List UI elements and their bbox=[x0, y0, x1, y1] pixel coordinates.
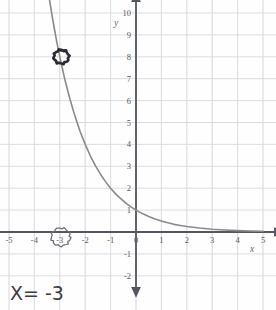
x-tick-label: -3 bbox=[56, 235, 63, 245]
x-axis-label: x bbox=[249, 244, 255, 254]
coordinate-plane: -5-4-3-2-1012345 -2-112345678910 x y X= … bbox=[0, 0, 276, 310]
paper-background bbox=[0, 0, 276, 310]
x-tick-label: 5 bbox=[261, 235, 265, 245]
x-tick-label: -4 bbox=[31, 235, 39, 245]
y-tick-label: -1 bbox=[124, 249, 131, 259]
y-tick-label: 10 bbox=[123, 8, 132, 18]
y-tick-label: 8 bbox=[127, 52, 131, 62]
x-tick-label: 3 bbox=[210, 235, 214, 245]
y-tick-label: 6 bbox=[127, 96, 131, 106]
y-axis-label: y bbox=[113, 18, 119, 28]
y-tick-label: 3 bbox=[127, 161, 131, 171]
x-tick-label: -2 bbox=[82, 235, 89, 245]
y-tick-label: 7 bbox=[127, 74, 131, 84]
graph-canvas: -5-4-3-2-1012345 -2-112345678910 x y X= … bbox=[0, 0, 276, 310]
x-tick-label: -5 bbox=[5, 235, 12, 245]
handwritten-answer: X= -3 bbox=[10, 282, 64, 304]
y-tick-label: 9 bbox=[127, 30, 131, 40]
y-tick-label: 2 bbox=[127, 183, 131, 193]
x-tick-label: -1 bbox=[107, 235, 114, 245]
y-tick-label: 5 bbox=[127, 118, 131, 128]
x-tick-label: 2 bbox=[185, 235, 189, 245]
x-tick-label: 0 bbox=[134, 235, 138, 245]
x-tick-label: 1 bbox=[159, 235, 163, 245]
y-tick-label: -2 bbox=[124, 271, 131, 281]
x-tick-label: 4 bbox=[235, 235, 240, 245]
